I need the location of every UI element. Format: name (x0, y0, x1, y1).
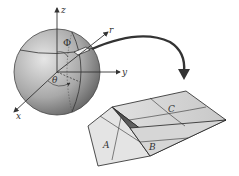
z-label: z (60, 5, 66, 15)
diagram: z y x r Φ θ C A B (0, 0, 239, 176)
magnify-arrow (92, 36, 184, 72)
y-label: y (121, 67, 128, 77)
face-a-label: A (102, 140, 110, 150)
face-c-label: C (168, 104, 175, 114)
r-label: r (109, 25, 114, 35)
theta-label: θ (52, 75, 58, 85)
x-label: x (16, 111, 21, 121)
phi-label: Φ (63, 37, 71, 48)
face-b-label: B (148, 142, 156, 152)
volume-element-large: C A B (88, 91, 226, 166)
magnify-arrowhead (178, 69, 190, 80)
